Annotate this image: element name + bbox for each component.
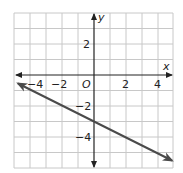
x-tick-2: 2 xyxy=(122,78,129,91)
y-tick-neg4: −4 xyxy=(75,131,91,144)
y-tick-2: 2 xyxy=(83,38,90,51)
x-tick-neg2: −2 xyxy=(51,78,67,91)
y-axis-label: y xyxy=(97,11,105,24)
x-axis-label: x xyxy=(162,60,170,73)
x-tick-4: 4 xyxy=(154,78,161,91)
origin-label: O xyxy=(82,78,91,91)
coordinate-plane: x y O −4 −2 2 4 2 −2 −4 xyxy=(0,0,183,173)
x-tick-neg4: −4 xyxy=(27,78,43,91)
y-tick-neg2: −2 xyxy=(75,100,91,113)
